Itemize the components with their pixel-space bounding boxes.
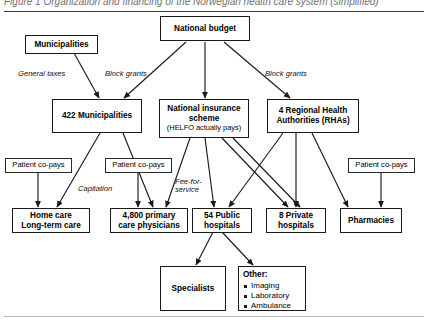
node-label: Municipalities <box>34 40 88 50</box>
list-item: Ambulance <box>251 301 291 311</box>
diagram-canvas: Figure 1 Organization and financing of t… <box>0 0 428 324</box>
node-municipalities-source[interactable]: Municipalities <box>25 35 98 54</box>
node-label: Specialists <box>172 284 215 294</box>
node-patient-copays-left[interactable]: Patient co-pays <box>5 158 72 173</box>
node-label: 54 Publichospitals <box>204 211 240 230</box>
header-rule <box>4 11 424 12</box>
other-services-list: Imaging Laboratory Ambulance <box>243 281 291 312</box>
node-label: National insurancescheme <box>167 104 240 123</box>
node-patient-copays-right[interactable]: Patient co-pays <box>348 158 415 173</box>
node-national-budget[interactable]: National budget <box>160 16 250 41</box>
edge-label-general-taxes: General taxes <box>18 70 65 78</box>
node-home-care[interactable]: Home careLong-term care <box>12 208 90 233</box>
edge-label-fee-for-service: Fee-for-service <box>175 178 209 195</box>
edge-label-block-grants-left: Block grants <box>105 70 147 78</box>
list-item: Laboratory <box>251 291 291 301</box>
node-label: Pharmacies <box>348 216 394 226</box>
node-label: 4 Regional HealthAuthorities (RHAs) <box>276 106 349 125</box>
edge-label-block-grants-right: Block grants <box>265 70 307 78</box>
edge-label-capitation: Capitation <box>78 185 112 193</box>
node-other-services[interactable]: Other: Imaging Laboratory Ambulance <box>238 266 306 311</box>
node-pharmacies[interactable]: Pharmacies <box>340 208 402 233</box>
node-label: Patient co-pays <box>12 161 64 170</box>
footer-rule <box>4 316 424 317</box>
figure-caption-clipped: Figure 1 Organization and financing of t… <box>4 0 424 8</box>
node-regional-health-authorities[interactable]: 4 Regional HealthAuthorities (RHAs) <box>267 99 359 133</box>
node-label: 8 Privatehospitals <box>278 211 314 230</box>
node-primary-care-physicians[interactable]: 4,800 primarycare physicians <box>110 208 188 233</box>
node-label: Home careLong-term care <box>21 211 81 230</box>
node-label: Patient co-pays <box>112 161 164 170</box>
node-national-insurance-scheme[interactable]: National insurancescheme (HELFO actually… <box>159 99 249 138</box>
node-public-hospitals[interactable]: 54 Publichospitals <box>192 208 252 233</box>
node-label: National budget <box>174 24 236 34</box>
node-label: Patient co-pays <box>355 161 407 170</box>
node-specialists[interactable]: Specialists <box>160 266 226 311</box>
node-patient-copays-middle[interactable]: Patient co-pays <box>105 158 172 173</box>
node-422-municipalities[interactable]: 422 Municipalities <box>52 99 142 133</box>
node-private-hospitals[interactable]: 8 Privatehospitals <box>266 208 326 233</box>
list-item: Imaging <box>251 281 291 291</box>
node-label: 4,800 primarycare physicians <box>118 211 179 230</box>
node-sublabel: (HELFO actually pays) <box>167 124 241 133</box>
node-label: Other: <box>243 270 268 280</box>
node-label: 422 Municipalities <box>62 111 132 121</box>
